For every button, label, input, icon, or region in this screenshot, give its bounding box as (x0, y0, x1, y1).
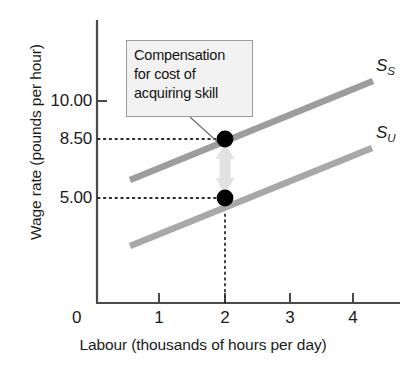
x-tick-label-4: 4 (338, 308, 368, 328)
origin-label: 0 (72, 308, 81, 328)
compensation-gap-arrow (216, 143, 235, 194)
x-tick-label-2: 2 (210, 308, 240, 328)
skilled-equilibrium-point (217, 131, 234, 148)
y-tick-label-5-00: 5.00 (20, 188, 92, 208)
curve-label-skilled-main: S (376, 56, 387, 75)
callout-line-3: acquiring skill (134, 84, 246, 103)
compensation-callout-box: Compensation for cost of acquiring skill (126, 40, 253, 117)
x-tick-label-1: 1 (144, 308, 174, 328)
curve-label-unskilled: SU (376, 123, 396, 144)
unskilled-equilibrium-point (217, 190, 234, 207)
y-tick-label-8-50: 8.50 (20, 129, 92, 149)
economics-supply-chart: Wage rate (pounds per hour) Labour (thou… (0, 0, 406, 365)
x-tick-label-3: 3 (275, 308, 305, 328)
callout-line-2: for cost of (134, 65, 246, 84)
curve-label-skilled: SS (376, 56, 395, 77)
x-axis-title: Labour (thousands of hours per day) (0, 336, 406, 354)
callout-line-1: Compensation (134, 46, 246, 65)
curve-label-skilled-sub: S (387, 65, 395, 77)
curve-label-unskilled-sub: U (387, 132, 395, 144)
curve-label-unskilled-main: S (376, 123, 387, 142)
y-tick-label-10: 10.00 (20, 91, 92, 111)
